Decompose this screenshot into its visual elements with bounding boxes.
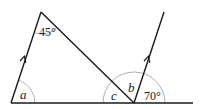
label-b: b (128, 80, 135, 95)
angle-diagram: 45° a c b 70° (0, 0, 200, 109)
label-a: a (20, 87, 27, 102)
label-70: 70° (144, 89, 161, 103)
label-c: c (111, 88, 117, 103)
label-45: 45° (39, 25, 56, 39)
